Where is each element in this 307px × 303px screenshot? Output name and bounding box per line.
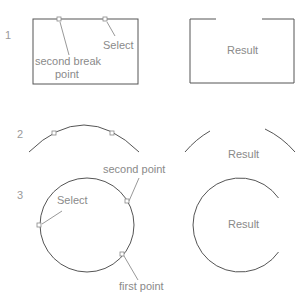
arc-break-marker-2	[110, 131, 114, 135]
leader-line-select	[107, 22, 115, 36]
step-2-number: 2	[17, 128, 23, 140]
break-point-marker-2	[57, 17, 61, 21]
leader-line-second-break	[60, 22, 69, 55]
source-arc	[29, 125, 139, 152]
leader-line-first-point	[124, 256, 138, 280]
result-arc-left	[185, 131, 210, 152]
select-label: Select	[103, 39, 134, 51]
arc-break-marker-1	[52, 131, 56, 135]
result-arc-right	[265, 129, 295, 152]
leader-line-select-circle	[42, 211, 62, 224]
break-command-diagram: 1 Select second break point Result 2 Res…	[0, 0, 307, 303]
select-label-circle: Select	[57, 194, 88, 206]
select-point-marker-circle	[37, 223, 41, 227]
second-point-marker	[125, 199, 129, 203]
first-point-label: first point	[119, 280, 164, 292]
result-label-2: Result	[228, 148, 259, 160]
result-label-1: Result	[227, 44, 258, 56]
second-break-label-line2: point	[55, 68, 79, 80]
step-1-number: 1	[5, 29, 11, 41]
step-3-number: 3	[17, 189, 23, 201]
first-point-marker	[120, 252, 124, 256]
result-label-3: Result	[228, 218, 259, 230]
second-break-label-line1: second break	[35, 55, 102, 67]
leader-line-second-point	[129, 178, 139, 201]
source-rectangle	[33, 19, 138, 84]
source-circle	[40, 178, 134, 272]
select-point-marker	[103, 17, 107, 21]
second-point-label: second point	[103, 163, 165, 175]
